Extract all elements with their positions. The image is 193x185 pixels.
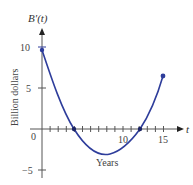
y-tick-10: 10	[20, 42, 30, 53]
series-line	[42, 50, 163, 155]
chart: B′(t) 10 5 0 −5 10 15 t Years Billion do…	[0, 0, 193, 185]
y-axis-label: Billion dollars	[9, 68, 20, 126]
data-point-end	[161, 74, 166, 79]
origin-label: 0	[31, 131, 36, 142]
y-tick-5: 5	[26, 83, 31, 94]
x-tick-15: 15	[158, 134, 168, 145]
y-tick-neg5: −5	[22, 165, 33, 176]
y-axis-arrow-icon	[39, 28, 45, 35]
x-variable-label: t	[186, 123, 190, 135]
x-axis-label: Years	[96, 157, 118, 168]
x-axis-arrow-icon	[177, 126, 184, 132]
data-point-zero-1	[72, 127, 76, 131]
data-point-zero-2	[138, 127, 142, 131]
data-point-start	[40, 48, 44, 52]
chart-title: B′(t)	[28, 12, 48, 25]
